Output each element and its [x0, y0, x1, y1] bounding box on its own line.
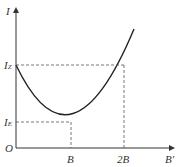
tick-2b: 2B: [117, 154, 129, 165]
tick-ie-sub: E: [8, 120, 12, 128]
tick-iz: IZ: [4, 60, 12, 71]
diagram-canvas: [0, 0, 180, 167]
x-axis-label: B': [165, 154, 174, 165]
tick-ie: IE: [4, 117, 12, 128]
tick-iz-sub: Z: [8, 63, 12, 71]
origin-label: O: [5, 143, 13, 154]
y-axis-label: I: [6, 6, 10, 17]
tick-b: B: [67, 154, 74, 165]
curve: [16, 29, 134, 115]
